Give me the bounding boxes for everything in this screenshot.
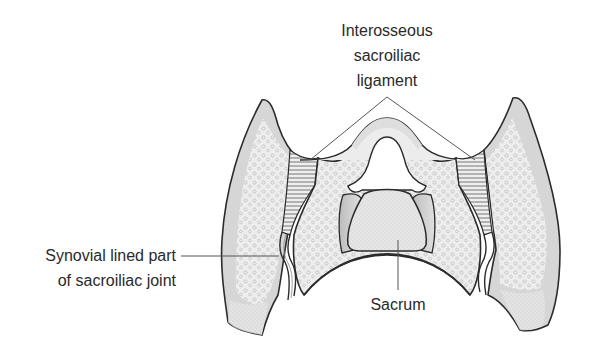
synovial-joint-label: Synovial lined part of sacroiliac joint [45, 247, 176, 289]
sacroiliac-diagram: Interosseous sacroiliac ligament Synovia… [0, 0, 591, 359]
interosseous-ligament-label: Interosseous sacroiliac ligament [341, 22, 433, 89]
sacrum-bone [293, 118, 480, 295]
sacrum-label: Sacrum [370, 296, 425, 313]
interosseous-label-line-2: sacroiliac [354, 47, 421, 64]
right-ilium [484, 98, 560, 331]
interosseous-label-line-3: ligament [357, 72, 418, 89]
synovial-label-line-1: Synovial lined part [45, 247, 176, 264]
synovial-label-line-2: of sacroiliac joint [58, 272, 177, 289]
diagram-canvas: Interosseous sacroiliac ligament Synovia… [0, 0, 591, 359]
interosseous-label-line-1: Interosseous [341, 22, 433, 39]
